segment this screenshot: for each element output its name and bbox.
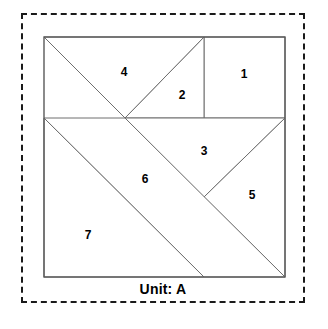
piece-number-label: 4 <box>121 65 128 79</box>
piece-number-label: 3 <box>201 144 208 158</box>
tangram-figure: 1234567 Unit: A <box>0 0 328 329</box>
piece-number-label: 6 <box>142 172 149 186</box>
piece-number-label: 2 <box>179 88 186 102</box>
piece-number-label: 5 <box>249 188 256 202</box>
piece-number-label: 7 <box>85 228 92 242</box>
piece-number-label: 1 <box>241 67 248 81</box>
tangram-pieces-group <box>44 37 285 277</box>
tangram-diagram: 1234567 <box>0 0 328 329</box>
unit-caption: Unit: A <box>21 281 305 297</box>
